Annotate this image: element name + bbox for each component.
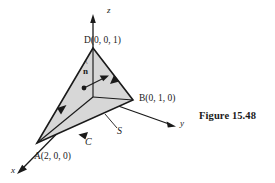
z-axis-arrowhead bbox=[90, 14, 96, 23]
surface-S-label: S bbox=[117, 126, 122, 136]
normal-letter: n bbox=[83, 67, 88, 76]
curve-C-label: C bbox=[85, 137, 92, 147]
figure-container: z y x D(0, 0, 1) B(0, 1, 0) A(2, 0, 0) C… bbox=[0, 0, 275, 183]
vertex-A-label: A(2, 0, 0) bbox=[34, 152, 71, 162]
y-axis-arrowhead bbox=[167, 122, 176, 128]
y-axis-label: y bbox=[180, 119, 184, 128]
vertex-D-label: D(0, 0, 1) bbox=[84, 36, 121, 46]
s-leader-line bbox=[105, 114, 117, 128]
surface-label-leader bbox=[105, 114, 117, 128]
vertex-B-label: B(0, 1, 0) bbox=[139, 94, 175, 104]
x-axis-label: x bbox=[11, 166, 15, 175]
z-axis-label: z bbox=[107, 6, 111, 15]
figure-caption: Figure 15.48 bbox=[199, 110, 256, 121]
normal-vector-label: ^ n bbox=[83, 62, 88, 76]
